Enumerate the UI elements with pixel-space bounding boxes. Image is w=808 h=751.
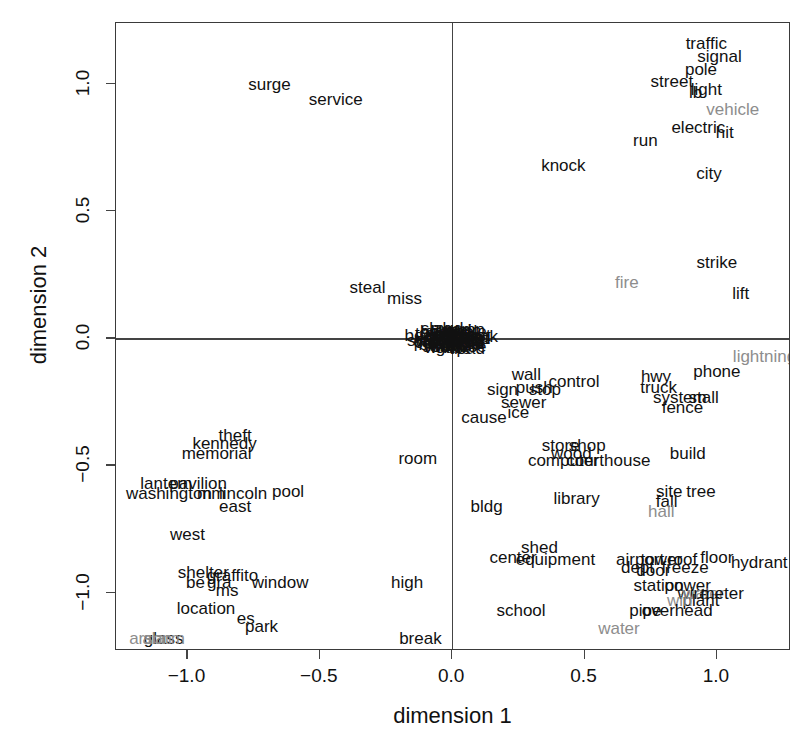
word-label: lightning <box>733 348 790 365</box>
word-label: high <box>391 574 423 591</box>
word-label: surge <box>248 76 291 93</box>
x-tick-label: −1.0 <box>168 665 206 687</box>
word-label: ms <box>216 581 239 598</box>
y-tick-mark <box>106 337 115 338</box>
word-label: room <box>398 449 437 466</box>
word-label: window <box>252 574 309 591</box>
x-tick-mark <box>186 650 187 659</box>
word-label: run <box>633 131 658 148</box>
word-label: overhead <box>642 602 713 619</box>
y-tick-label: −0.5 <box>72 446 94 484</box>
word-label: park <box>245 617 278 634</box>
word-label: step <box>407 332 439 349</box>
word-label: fence <box>662 398 704 415</box>
word-label: tree <box>686 482 715 499</box>
x-tick-label: 1.0 <box>703 665 729 687</box>
x-axis-label: dimension 1 <box>115 703 790 729</box>
x-tick-label: −0.5 <box>300 665 338 687</box>
y-axis-label: dimension 2 <box>26 155 52 455</box>
word-label: knock <box>541 157 585 174</box>
word-label: street <box>651 73 694 90</box>
word-label: freeze <box>661 559 708 576</box>
word-label: ice <box>507 404 529 421</box>
word-label: arson <box>129 630 172 647</box>
word-label: hall <box>648 503 674 520</box>
word-label: steal <box>350 279 386 296</box>
word-label: phone <box>693 363 740 380</box>
word-label: break <box>399 630 442 647</box>
word-label: east <box>219 498 251 515</box>
word-label: equipment <box>516 551 595 568</box>
y-tick-mark <box>106 83 115 84</box>
x-tick-mark <box>584 650 585 659</box>
x-tick-label: 0.5 <box>570 665 596 687</box>
x-tick-mark <box>716 650 717 659</box>
x-tick-mark <box>319 650 320 659</box>
word-label: deck <box>462 327 498 344</box>
word-label: fire <box>615 274 639 291</box>
y-tick-mark <box>106 210 115 211</box>
word-label: miss <box>387 289 422 306</box>
word-label: be <box>186 574 205 591</box>
word-label: pool <box>272 482 304 499</box>
word-label: water <box>598 620 640 637</box>
word-label: hydrant <box>731 554 788 571</box>
y-tick-label: −1.0 <box>72 573 94 611</box>
word-label: lb <box>689 83 702 100</box>
word-label: library <box>553 490 599 507</box>
x-tick-label: 0.0 <box>438 665 464 687</box>
word-label: hit <box>716 124 734 141</box>
y-tick-label: 0.0 <box>72 324 94 350</box>
y-tick-label: 1.0 <box>72 70 94 96</box>
word-label: memorial <box>182 444 252 461</box>
plot-panel: surgeservicestealmisstrafficsignalpolest… <box>115 22 790 650</box>
word-label: vehicle <box>706 101 759 118</box>
word-label: city <box>696 165 722 182</box>
word-label: bldg <box>471 498 503 515</box>
chart-title <box>0 0 808 2</box>
word-label: cause <box>461 409 506 426</box>
word-label: school <box>496 602 545 619</box>
y-tick-mark <box>106 464 115 465</box>
word-label: location <box>177 599 236 616</box>
y-tick-mark <box>106 592 115 593</box>
word-label: lift <box>732 284 749 301</box>
x-tick-mark <box>451 650 452 659</box>
y-tick-label: 0.5 <box>72 197 94 223</box>
word-label: service <box>309 91 363 108</box>
word-label: build <box>670 444 706 461</box>
word-label: courthouse <box>566 452 650 469</box>
word-label: strike <box>697 253 738 270</box>
word-label: west <box>170 526 205 543</box>
scatter-plot-figure: surgeservicestealmisstrafficsignalpolest… <box>0 0 808 751</box>
